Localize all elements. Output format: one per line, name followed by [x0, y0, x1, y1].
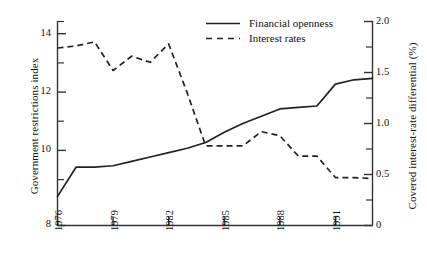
legend-label-interest-rates: Interest rates — [249, 32, 306, 44]
y-axis-left-minor-ticks — [58, 22, 65, 180]
x-axis-tick-1979: 1979 — [109, 210, 120, 231]
x-axis-ticks — [58, 217, 336, 226]
x-axis-tick-1988: 1988 — [275, 210, 286, 231]
y-axis-left-tick-10: 10 — [25, 143, 51, 154]
y-axis-left-tick-14: 14 — [25, 27, 51, 38]
y-axis-right-title: Covered interest-rate differential (%) — [406, 21, 418, 231]
y-axis-left-tick-8: 8 — [25, 218, 51, 229]
y-axis-right-tick-0: 0 — [376, 219, 406, 230]
chart-figure: Government restrictions index Covered in… — [0, 0, 427, 275]
x-axis-tick-1985: 1985 — [220, 210, 231, 231]
series-line-interest-rates — [58, 42, 373, 179]
y-axis-left-title: Government restrictions index — [28, 31, 40, 221]
legend-label-financial-openness: Financial openness — [249, 17, 333, 29]
x-axis-tick-1991: 1991 — [331, 210, 342, 231]
y-axis-right-tick-0-5: 0.5 — [376, 168, 406, 179]
y-axis-right-tick-1-0: 1.0 — [376, 117, 406, 128]
y-axis-left-tick-12: 12 — [25, 85, 51, 96]
chart-plot-area — [0, 0, 427, 275]
x-axis-tick-1982: 1982 — [164, 210, 175, 231]
y-axis-right-tick-2-0: 2.0 — [376, 15, 406, 26]
series-line-financial-openness — [58, 78, 373, 196]
y-axis-right-major-ticks — [364, 22, 373, 226]
x-axis-tick-1976: 1976 — [53, 210, 64, 231]
y-axis-right-tick-1-5: 1.5 — [376, 66, 406, 77]
